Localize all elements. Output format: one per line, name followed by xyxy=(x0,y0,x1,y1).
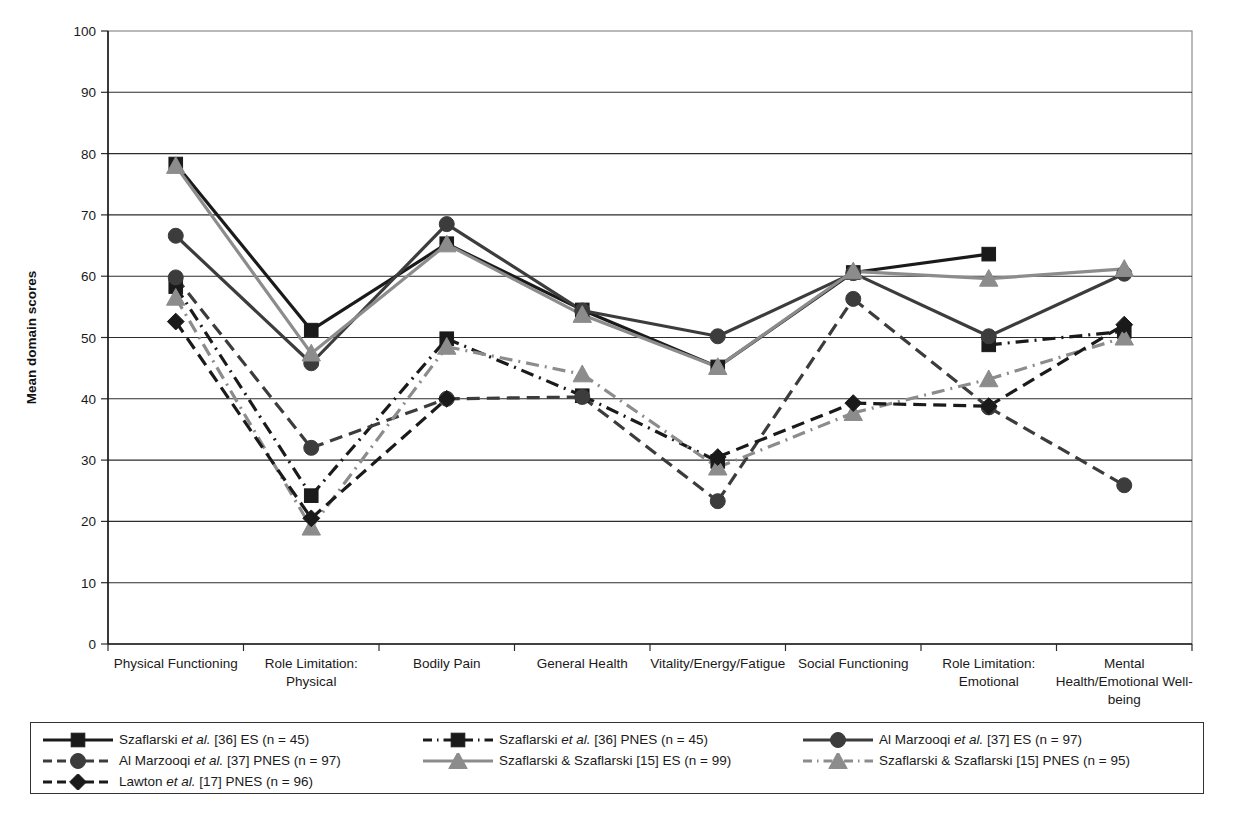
data-point-szaflarski36_pnes-legend xyxy=(451,733,465,747)
x-tick-label: Bodily Pain xyxy=(413,656,481,671)
legend-swatch-szafszaf15_es xyxy=(421,753,495,769)
legend-item-szaflarski36_es[interactable]: Szaflarski et al. [36] ES (n = 45) xyxy=(41,732,421,748)
legend-grid: Szaflarski et al. [36] ES (n = 45)Szafla… xyxy=(41,729,1199,792)
legend-swatch-szafszaf15_pnes xyxy=(801,753,875,769)
y-tick-label: 10 xyxy=(81,576,96,591)
chart-legend: Szaflarski et al. [36] ES (n = 45)Szafla… xyxy=(30,722,1204,794)
x-tick-label: Health/Emotional Well- xyxy=(1056,674,1193,689)
data-point-almarzooqi37_pnes xyxy=(710,494,725,509)
data-point-almarzooqi37_pnes xyxy=(168,270,183,285)
legend-item-almarzooqi37_pnes[interactable]: Al Marzooqi et al. [37] PNES (n = 97) xyxy=(41,753,421,769)
x-tick-label: Vitality/Energy/Fatigue xyxy=(650,656,785,671)
x-tick-label: Role Limitation: xyxy=(265,656,358,671)
y-tick-label: 50 xyxy=(81,331,96,346)
legend-item-szaflarski36_pnes[interactable]: Szaflarski et al. [36] PNES (n = 45) xyxy=(421,732,801,748)
y-tick-label: 100 xyxy=(73,24,96,39)
data-point-almarzooqi37_es xyxy=(981,329,996,344)
legend-swatch-almarzooqi37_pnes xyxy=(41,753,115,769)
legend-item-almarzooqi37_es[interactable]: Al Marzooqi et al. [37] ES (n = 97) xyxy=(801,732,1201,748)
data-point-szaflarski36_es xyxy=(304,323,318,337)
y-tick-label: 90 xyxy=(81,85,96,100)
data-point-almarzooqi37_es xyxy=(168,228,183,243)
x-tick-label: Emotional xyxy=(959,674,1019,689)
y-tick-label: 30 xyxy=(81,453,96,468)
figure-container: 0102030405060708090100Physical Functioni… xyxy=(0,0,1236,818)
x-tick-label: Social Functioning xyxy=(798,656,908,671)
x-tick-label: being xyxy=(1108,692,1141,707)
data-point-almarzooqi37_pnes xyxy=(1117,478,1132,493)
legend-label-almarzooqi37_es: Al Marzooqi et al. [37] ES (n = 97) xyxy=(879,733,1082,747)
chart-area: 0102030405060708090100Physical Functioni… xyxy=(0,0,1236,710)
x-tick-label: Physical Functioning xyxy=(114,656,238,671)
legend-label-szaflarski36_es: Szaflarski et al. [36] ES (n = 45) xyxy=(119,733,309,747)
y-tick-label: 80 xyxy=(81,147,96,162)
legend-item-szafszaf15_pnes[interactable]: Szaflarski & Szaflarski [15] PNES (n = 9… xyxy=(801,753,1201,769)
data-point-szaflarski36_es xyxy=(982,247,996,261)
x-tick-label: Mental xyxy=(1104,656,1145,671)
data-point-almarzooqi37_es xyxy=(710,329,725,344)
legend-swatch-almarzooqi37_es xyxy=(801,732,875,748)
data-point-almarzooqi37_pnes xyxy=(575,389,590,404)
y-tick-label: 20 xyxy=(81,514,96,529)
data-point-almarzooqi37_pnes-legend xyxy=(71,753,86,768)
x-tick-label: Physical xyxy=(286,674,336,689)
legend-label-szafszaf15_pnes: Szaflarski & Szaflarski [15] PNES (n = 9… xyxy=(879,754,1130,768)
data-point-almarzooqi37_es-legend xyxy=(831,732,846,747)
legend-label-szafszaf15_es: Szaflarski & Szaflarski [15] ES (n = 99) xyxy=(499,754,731,768)
x-tick-label: General Health xyxy=(537,656,628,671)
y-tick-label: 0 xyxy=(88,637,96,652)
line-chart-svg: 0102030405060708090100Physical Functioni… xyxy=(0,0,1236,710)
data-point-almarzooqi37_es xyxy=(439,217,454,232)
y-axis-title: Mean domain scores xyxy=(24,271,39,405)
legend-label-lawton17_pnes: Lawton et al. [17] PNES (n = 96) xyxy=(119,775,313,789)
data-point-szaflarski36_es-legend xyxy=(71,733,85,747)
x-tick-label: Role Limitation: xyxy=(942,656,1035,671)
data-point-almarzooqi37_pnes xyxy=(846,291,861,306)
data-point-szaflarski36_pnes xyxy=(304,489,318,503)
legend-swatch-szaflarski36_es xyxy=(41,732,115,748)
legend-swatch-lawton17_pnes xyxy=(41,774,115,790)
data-point-lawton17_pnes-legend xyxy=(70,774,87,790)
legend-item-szafszaf15_es[interactable]: Szaflarski & Szaflarski [15] ES (n = 99) xyxy=(421,753,801,769)
legend-swatch-szaflarski36_pnes xyxy=(421,732,495,748)
legend-item-lawton17_pnes[interactable]: Lawton et al. [17] PNES (n = 96) xyxy=(41,774,421,790)
data-point-almarzooqi37_pnes xyxy=(304,440,319,455)
y-tick-label: 40 xyxy=(81,392,96,407)
legend-label-szaflarski36_pnes: Szaflarski et al. [36] PNES (n = 45) xyxy=(499,733,708,747)
y-tick-label: 70 xyxy=(81,208,96,223)
y-tick-label: 60 xyxy=(81,269,96,284)
legend-label-almarzooqi37_pnes: Al Marzooqi et al. [37] PNES (n = 97) xyxy=(119,754,341,768)
